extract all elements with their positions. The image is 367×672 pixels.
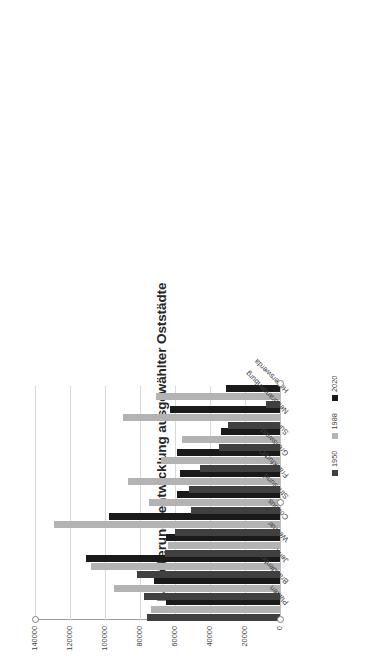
bar: [226, 385, 280, 392]
value-tick-label: 60000: [170, 626, 179, 670]
bar: [170, 406, 280, 413]
axis-endcap-0: [32, 616, 39, 623]
rotated-figure-wrapper: Bevölkerungsentwicklung ausgewählter Ost…: [0, 0, 367, 672]
gridline-100000: [105, 386, 106, 620]
bar: [151, 606, 281, 613]
bar: [91, 563, 280, 570]
chart-legend: 195019882020: [330, 376, 339, 476]
bar: [156, 393, 280, 400]
plot-area: [35, 386, 280, 620]
bar: [114, 585, 280, 592]
legend-swatch-icon: [332, 470, 338, 476]
bar: [200, 465, 281, 472]
value-tick-label: 140000: [30, 626, 39, 670]
bar: [123, 414, 281, 421]
legend-item[interactable]: 1988: [330, 413, 339, 438]
bar: [149, 500, 280, 507]
bar: [54, 521, 280, 528]
bar: [128, 478, 280, 485]
gridline-120000: [70, 386, 71, 620]
legend-swatch-icon: [332, 433, 338, 439]
bar: [191, 508, 280, 515]
bar: [168, 542, 280, 549]
value-tick-label: 40000: [205, 626, 214, 670]
bar: [144, 593, 281, 600]
bar: [161, 457, 280, 464]
bar: [219, 444, 280, 451]
legend-label: 1988: [330, 413, 339, 429]
axis-endcap-zero-right: [277, 380, 284, 387]
bar: [182, 436, 280, 443]
value-tick-label: 0: [275, 626, 284, 670]
legend-item[interactable]: 1950: [330, 451, 339, 476]
bar: [137, 571, 281, 578]
bar: [165, 550, 281, 557]
bar: [175, 529, 280, 536]
legend-swatch-icon: [332, 395, 338, 401]
bar: [147, 614, 280, 621]
value-tick-label: 120000: [65, 626, 74, 670]
bar: [228, 422, 281, 429]
bar: [266, 401, 280, 408]
legend-label: 1950: [330, 451, 339, 467]
value-tick-label: 80000: [135, 626, 144, 670]
value-tick-label: 100000: [100, 626, 109, 670]
legend-label: 2020: [330, 376, 339, 392]
legend-item[interactable]: 2020: [330, 376, 339, 401]
axis-endcap-1: [277, 616, 284, 623]
chart-figure: Bevölkerungsentwicklung ausgewählter Ost…: [0, 0, 367, 672]
gridline-140000: [35, 386, 36, 620]
axis-endcap-zero-mid: [277, 499, 284, 506]
bar: [189, 486, 280, 493]
value-tick-label: 20000: [240, 626, 249, 670]
